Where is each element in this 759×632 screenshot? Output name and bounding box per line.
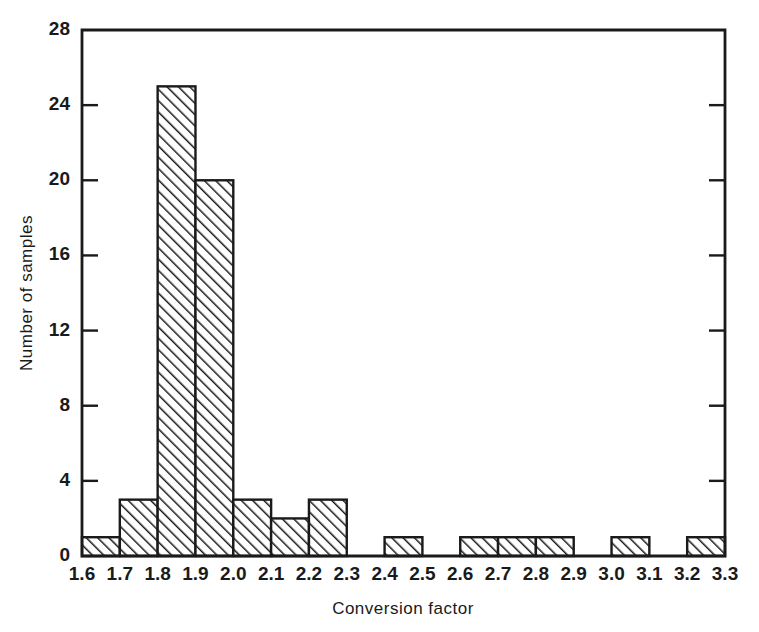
histogram-bar (195, 180, 233, 556)
x-axis-title: Conversion factor (332, 599, 474, 618)
histogram-bar (536, 537, 574, 556)
y-axis-tick-label: 24 (49, 93, 71, 114)
histogram-bar (385, 537, 423, 556)
x-axis-tick-label: 2.1 (258, 563, 285, 584)
x-axis-tick-label: 3.1 (636, 563, 663, 584)
x-axis-tick-label: 2.5 (409, 563, 436, 584)
y-axis-title: Number of samples (17, 215, 36, 371)
y-axis-tick-label: 20 (49, 168, 70, 189)
histogram-bar (612, 537, 650, 556)
x-axis-tick-label: 2.8 (523, 563, 549, 584)
y-axis-tick-label: 12 (49, 319, 70, 340)
x-axis-tick-label: 1.6 (69, 563, 95, 584)
y-axis-tick-label: 16 (49, 243, 70, 264)
x-axis-tick-label: 1.9 (182, 563, 208, 584)
histogram-bar (498, 537, 536, 556)
x-axis-tick-label: 2.2 (296, 563, 322, 584)
x-axis-tick-label: 2.4 (371, 563, 398, 584)
x-axis-tick-label: 2.3 (334, 563, 360, 584)
y-axis-tick-label: 28 (49, 18, 70, 39)
histogram-bar (309, 500, 347, 556)
histogram-bar (687, 537, 725, 556)
x-axis-tick-label: 1.8 (144, 563, 170, 584)
x-axis-tick-label: 3.0 (598, 563, 624, 584)
y-axis-tick-label: 8 (59, 394, 70, 415)
x-axis-tick-label: 2.6 (447, 563, 473, 584)
histogram-bar (82, 537, 120, 556)
histogram-bar (233, 500, 271, 556)
x-axis-tick-label: 2.0 (220, 563, 246, 584)
x-axis-tick-label: 1.7 (107, 563, 133, 584)
x-axis-tick-label: 3.2 (674, 563, 700, 584)
histogram-bar (158, 86, 196, 556)
histogram-bar (120, 500, 158, 556)
chart-canvas: 0481216202428 1.61.71.81.92.02.12.22.32.… (0, 0, 759, 632)
x-axis-tick-label: 2.7 (485, 563, 511, 584)
x-axis-tick-label: 2.9 (560, 563, 586, 584)
y-axis-tick-label: 4 (59, 469, 70, 490)
histogram-figure: 0481216202428 1.61.71.81.92.02.12.22.32.… (0, 0, 759, 632)
x-axis-tick-label: 3.3 (712, 563, 738, 584)
histogram-bar (271, 518, 309, 556)
histogram-bar (460, 537, 498, 556)
